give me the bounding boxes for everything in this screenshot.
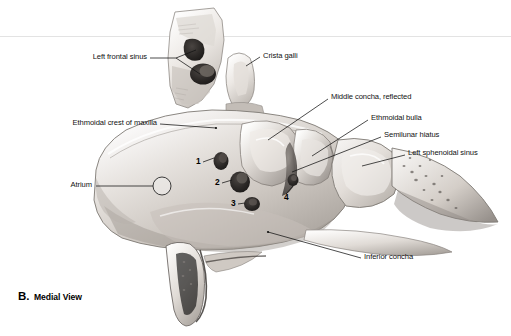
figure-panel: Left frontal sinus Crista galli Ethmoida…	[0, 0, 511, 336]
label-atrium: Atrium	[71, 181, 92, 189]
label-left-sphenoidal-sinus: Left sphenoidal sinus	[408, 149, 478, 157]
caption-letter: B.	[18, 290, 30, 302]
label-middle-concha-reflected: Middle concha, reflected	[331, 93, 411, 101]
posterior-wing-structure	[392, 148, 498, 231]
inferior-descending-process	[166, 242, 266, 326]
crista-galli-structure	[226, 53, 264, 114]
atrium-circle-marker	[153, 177, 171, 195]
caption-text: Medial View	[34, 292, 82, 302]
marker-label-4: 4	[284, 193, 289, 201]
label-crista-galli: Crista galli	[263, 52, 298, 60]
marker-label-1: 1	[196, 157, 201, 165]
marker-label-2: 2	[215, 178, 220, 186]
label-ethmoidal-bulla: Ethmoidal bulla	[371, 114, 422, 122]
label-left-frontal-sinus: Left frontal sinus	[93, 53, 147, 61]
label-ethmoidal-crest-of-maxilla: Ethmoidal crest of maxilla	[73, 119, 157, 127]
label-inferior-concha: Inferior concha	[364, 253, 413, 261]
left-sphenoidal-sinus-structure	[332, 139, 399, 208]
marker-label-3: 3	[231, 199, 236, 207]
figure-caption: B. Medial View	[18, 286, 82, 304]
label-semilunar-hiatus: Semilunar hiatus	[384, 131, 439, 139]
